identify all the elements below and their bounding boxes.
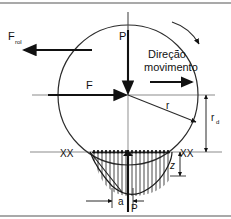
direction-label-line2: movimento — [144, 61, 198, 73]
radius-r-label: r — [166, 100, 170, 111]
direction-label-line1: Direção — [148, 48, 186, 60]
section-label-right: XX — [180, 148, 194, 159]
load-P-label: P — [119, 30, 126, 42]
dynamic-radius-label: r — [211, 112, 215, 123]
dynamic-radius-subscript: d — [216, 119, 219, 125]
rolling-resistance-subscript: rol — [15, 39, 22, 45]
rolling-wheel-diagram: P F rol F Direção movimento r r d XX XX — [0, 0, 231, 219]
section-label-left: XX — [60, 148, 74, 159]
reaction-P-label: P — [131, 203, 138, 214]
diagram-canvas: P F rol F Direção movimento r r d XX XX — [0, 0, 231, 219]
pressure-hatching — [94, 150, 168, 198]
rolling-resistance-label: F — [8, 30, 15, 42]
deflection-z-label: z — [169, 160, 175, 171]
rotation-arc-icon — [172, 22, 199, 44]
offset-a-label: a — [118, 196, 124, 207]
radius-r-line — [128, 95, 196, 122]
traction-force-label: F — [86, 79, 93, 91]
